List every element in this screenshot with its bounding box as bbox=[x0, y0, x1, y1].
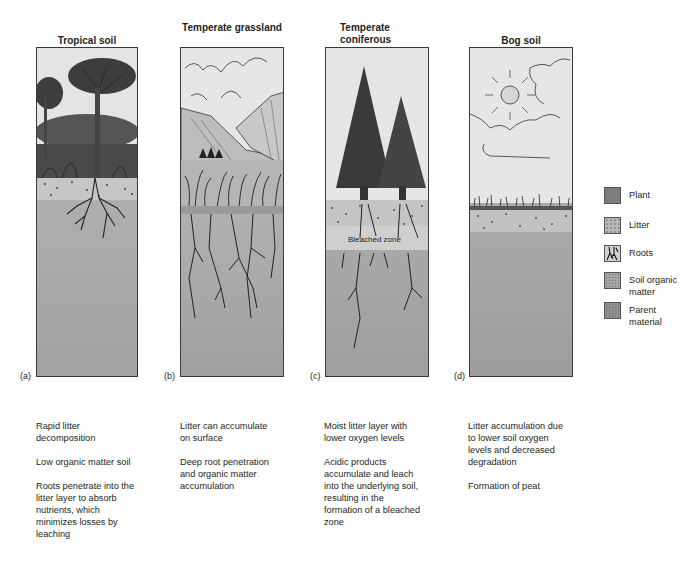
description-tropical: Rapid litter decomposition Low organic m… bbox=[36, 420, 136, 552]
panel-title-tropical: Tropical soil bbox=[36, 35, 138, 47]
panel-tropical-soil bbox=[36, 47, 138, 377]
grassland-illustration bbox=[181, 48, 284, 377]
plant-swatch-icon bbox=[604, 187, 621, 204]
panel-letter-d: (d) bbox=[454, 371, 465, 381]
description-line: Formation of peat bbox=[468, 480, 568, 492]
panel-bog-soil bbox=[469, 47, 573, 377]
legend-item-litter: Litter bbox=[604, 217, 679, 234]
panel-title-coniferous: Temperate coniferous bbox=[340, 22, 400, 46]
legend-item-plant: Plant bbox=[604, 187, 679, 204]
parent-material-swatch-icon bbox=[604, 302, 621, 319]
legend-label: Soil organic matter bbox=[629, 272, 679, 298]
panel-temperate-grassland bbox=[180, 47, 284, 377]
panel-letter-b: (b) bbox=[164, 371, 175, 381]
description-line: Roots penetrate into the litter layer to… bbox=[36, 480, 136, 540]
description-line: Deep root penetration and organic matter… bbox=[180, 456, 280, 492]
legend-label: Litter bbox=[629, 217, 679, 231]
legend-label: Plant bbox=[629, 187, 679, 201]
description-line: Moist litter layer with lower oxygen lev… bbox=[324, 420, 424, 444]
panel-temperate-coniferous: Bleached zone bbox=[325, 47, 429, 377]
panel-letter-c: (c) bbox=[310, 371, 321, 381]
legend-label: Roots bbox=[629, 245, 679, 259]
legend-item-soil-organic-matter: Soil organic matter bbox=[604, 272, 679, 298]
legend-item-roots: Roots bbox=[604, 245, 679, 262]
panel-title-grassland: Temperate grassland bbox=[180, 22, 284, 34]
panel-letter-a: (a) bbox=[20, 371, 31, 381]
tropical-soil-illustration bbox=[37, 48, 138, 377]
description-line: Litter can accumulate on surface bbox=[180, 420, 280, 444]
bleached-zone-label: Bleached zone bbox=[348, 235, 401, 244]
litter-swatch-icon bbox=[604, 217, 621, 234]
description-grassland: Litter can accumulate on surface Deep ro… bbox=[180, 420, 280, 504]
description-line: Low organic matter soil bbox=[36, 456, 136, 468]
legend-label: Parent material bbox=[629, 302, 679, 328]
description-line: Litter accumulation due to lower soil ox… bbox=[468, 420, 568, 468]
legend-item-parent-material: Parent material bbox=[604, 302, 679, 328]
coniferous-illustration bbox=[326, 48, 429, 377]
bog-soil-illustration bbox=[470, 48, 573, 377]
description-bog: Litter accumulation due to lower soil ox… bbox=[468, 420, 568, 504]
roots-swatch-icon bbox=[604, 245, 621, 262]
description-line: Rapid litter decomposition bbox=[36, 420, 136, 444]
description-coniferous: Moist litter layer with lower oxygen lev… bbox=[324, 420, 424, 540]
sun-icon bbox=[485, 70, 535, 120]
description-line: Acidic products accumulate and leach int… bbox=[324, 456, 424, 528]
panel-title-bog: Bog soil bbox=[469, 35, 573, 47]
soil-organic-matter-swatch-icon bbox=[604, 272, 621, 289]
